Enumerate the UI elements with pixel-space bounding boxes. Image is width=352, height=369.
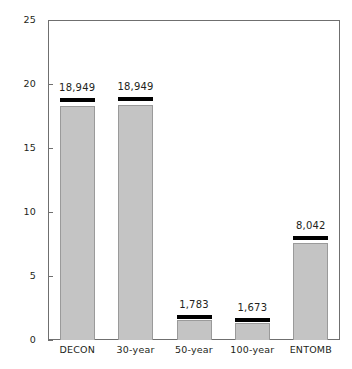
bar[interactable]: [118, 105, 153, 340]
y-tick-label: 10: [24, 206, 37, 217]
bar-group[interactable]: 18,949: [118, 20, 153, 340]
y-tick-label: 25: [24, 14, 37, 25]
bar[interactable]: [177, 320, 212, 340]
bar-cap: [293, 236, 328, 240]
bar-group[interactable]: 1,673: [235, 20, 270, 340]
x-axis-label-50-year: 50-year: [165, 344, 223, 355]
bar[interactable]: [235, 323, 270, 340]
bar-group[interactable]: 8,042: [293, 20, 328, 340]
bar-group[interactable]: 1,783: [177, 20, 212, 340]
bar[interactable]: [293, 243, 328, 340]
x-axis-label-decon: DECON: [48, 344, 106, 355]
bar-cap: [235, 318, 270, 322]
bar-value-label: 18,949: [96, 81, 175, 92]
bars-layer: 18,94918,9491,7831,6738,042: [48, 20, 340, 340]
x-axis-label-100-year: 100-year: [223, 344, 281, 355]
bar-cap: [177, 315, 212, 319]
bar-chart: Cubic meters 0510152025 18,94918,9491,78…: [0, 0, 352, 369]
y-tick-label: 20: [24, 78, 37, 89]
y-tick-label: 15: [24, 142, 37, 153]
x-axis-labels: DECON30-year50-year100-yearENTOMB: [48, 344, 340, 364]
bar-value-label: 1,673: [213, 302, 292, 313]
y-tick-mark: [48, 340, 53, 341]
bar-cap: [60, 98, 95, 102]
y-tick-label: 5: [30, 270, 36, 281]
bar-group[interactable]: 18,949: [60, 20, 95, 340]
bar-value-label: 8,042: [271, 220, 350, 231]
x-axis-label-entomb: ENTOMB: [282, 344, 340, 355]
bar[interactable]: [60, 106, 95, 340]
y-tick-label: 0: [30, 334, 36, 345]
bar-cap: [118, 97, 153, 101]
x-axis-label-30-year: 30-year: [106, 344, 164, 355]
